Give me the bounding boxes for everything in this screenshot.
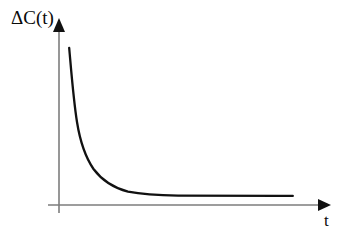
y-axis-arrowhead: [53, 18, 65, 32]
x-axis-arrowhead: [318, 199, 331, 211]
plot-area: [0, 0, 343, 238]
x-axis-label: t: [324, 212, 329, 229]
decay-curve-figure: ΔC(t) t: [0, 0, 343, 238]
y-axis-label: ΔC(t): [11, 8, 54, 27]
decay-curve: [69, 48, 293, 196]
